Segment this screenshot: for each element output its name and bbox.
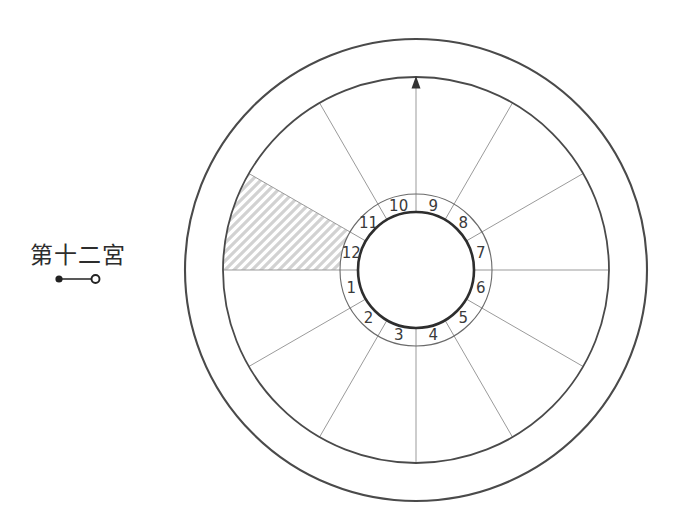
number-ring-tick: [378, 320, 387, 336]
number-ring-tick: [466, 232, 482, 241]
house-number: 9: [429, 197, 439, 215]
house-number: 11: [359, 214, 378, 232]
house-number: 8: [459, 214, 469, 232]
house-number: 12: [342, 244, 361, 262]
house-cusp-line: [320, 336, 379, 437]
number-ring-tick: [350, 232, 366, 241]
house-cusp-line: [482, 308, 583, 367]
house-cusp-line: [249, 308, 350, 367]
house-number: 1: [347, 279, 357, 297]
house-number: 10: [389, 197, 408, 215]
number-ring-tick: [378, 204, 387, 220]
house-wheel-diagram: 123456789101112: [0, 0, 676, 532]
number-ring-tick: [466, 299, 482, 308]
scanned-diagram-page: 第十二宮 123456789101112: [0, 0, 676, 532]
number-ring-tick: [350, 299, 366, 308]
house-number: 3: [394, 326, 404, 344]
number-ring-tick: [445, 320, 454, 336]
house-cusp-line: [320, 103, 379, 204]
house-number: 5: [459, 309, 469, 327]
house-number: 6: [476, 279, 486, 297]
house-number: 7: [476, 244, 486, 262]
house-number: 2: [364, 309, 374, 327]
house-cusp-line: [482, 174, 583, 233]
house-number: 4: [429, 326, 439, 344]
house-cusp-line: [454, 336, 513, 437]
house-cusp-line: [454, 103, 513, 204]
number-ring-tick: [445, 204, 454, 220]
